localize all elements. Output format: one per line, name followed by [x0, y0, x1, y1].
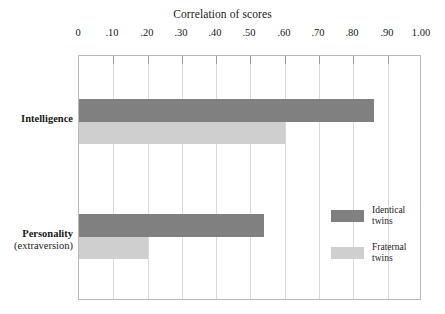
tick-mark-0.20 — [148, 56, 149, 64]
legend-label-fraternal-twins-line2: twins — [372, 253, 406, 264]
bar-intelligence-fraternal-twins — [79, 122, 285, 144]
legend-label-identical-twins: Identical twins — [372, 205, 405, 227]
x-tick-label-7: .70 — [311, 27, 324, 38]
category-label-intelligence: Intelligence — [21, 113, 73, 125]
bar-personality-identical-twins — [79, 214, 264, 237]
legend-item-identical-twins: Identical twins — [331, 205, 431, 242]
gridline-0.20 — [148, 56, 149, 299]
legend-item-fraternal-twins: Fraternal twins — [331, 242, 431, 279]
x-tick-label-6: .60 — [277, 27, 290, 38]
tick-mark-0.50 — [250, 56, 251, 64]
tick-mark-0.60 — [285, 56, 286, 64]
bar-intelligence-identical-twins — [79, 99, 374, 122]
bar-personality-fraternal-twins — [79, 237, 148, 259]
x-tick-label-10: 1.00 — [412, 27, 430, 38]
tick-mark-0.30 — [182, 56, 183, 64]
x-axis-tick-labels: 0 .10 .20 .30 .40 .50 .60 .70 .80 .90 1.… — [0, 27, 445, 41]
gridline-0.30 — [182, 56, 183, 299]
x-tick-label-4: .40 — [208, 27, 221, 38]
category-label-intelligence-main: Intelligence — [21, 113, 73, 125]
tick-mark-0.70 — [319, 56, 320, 64]
legend-swatch-identical-twins — [331, 210, 364, 222]
gridline-0.10 — [113, 56, 114, 299]
legend: Identical twins Fraternal twins — [331, 205, 431, 279]
gridline-0.70 — [319, 56, 320, 299]
chart-page: Correlation of scores 0 .10 .20 .30 .40 … — [0, 0, 445, 314]
x-tick-label-1: .10 — [105, 27, 118, 38]
category-label-personality-main: Personality — [14, 228, 73, 240]
legend-label-identical-twins-line2: twins — [372, 216, 405, 227]
x-tick-label-8: .80 — [345, 27, 358, 38]
x-tick-label-9: .90 — [380, 27, 393, 38]
gridline-0.60 — [285, 56, 286, 299]
legend-label-fraternal-twins-line1: Fraternal — [372, 242, 406, 253]
chart-title: Correlation of scores — [0, 8, 445, 20]
tick-mark-0.10 — [113, 56, 114, 64]
tick-mark-0.40 — [216, 56, 217, 64]
legend-label-identical-twins-line1: Identical — [372, 205, 405, 216]
legend-swatch-fraternal-twins — [331, 247, 364, 259]
x-tick-label-5: .50 — [242, 27, 255, 38]
legend-label-fraternal-twins: Fraternal twins — [372, 242, 406, 264]
x-tick-label-2: .20 — [140, 27, 153, 38]
x-tick-label-0: 0 — [75, 27, 80, 38]
tick-mark-0.80 — [353, 56, 354, 64]
tick-mark-0.90 — [388, 56, 389, 64]
gridline-0.40 — [216, 56, 217, 299]
category-label-personality-sub: (extraversion) — [14, 240, 73, 252]
x-tick-label-3: .30 — [174, 27, 187, 38]
category-label-personality: Personality (extraversion) — [14, 228, 73, 252]
gridline-0.50 — [250, 56, 251, 299]
